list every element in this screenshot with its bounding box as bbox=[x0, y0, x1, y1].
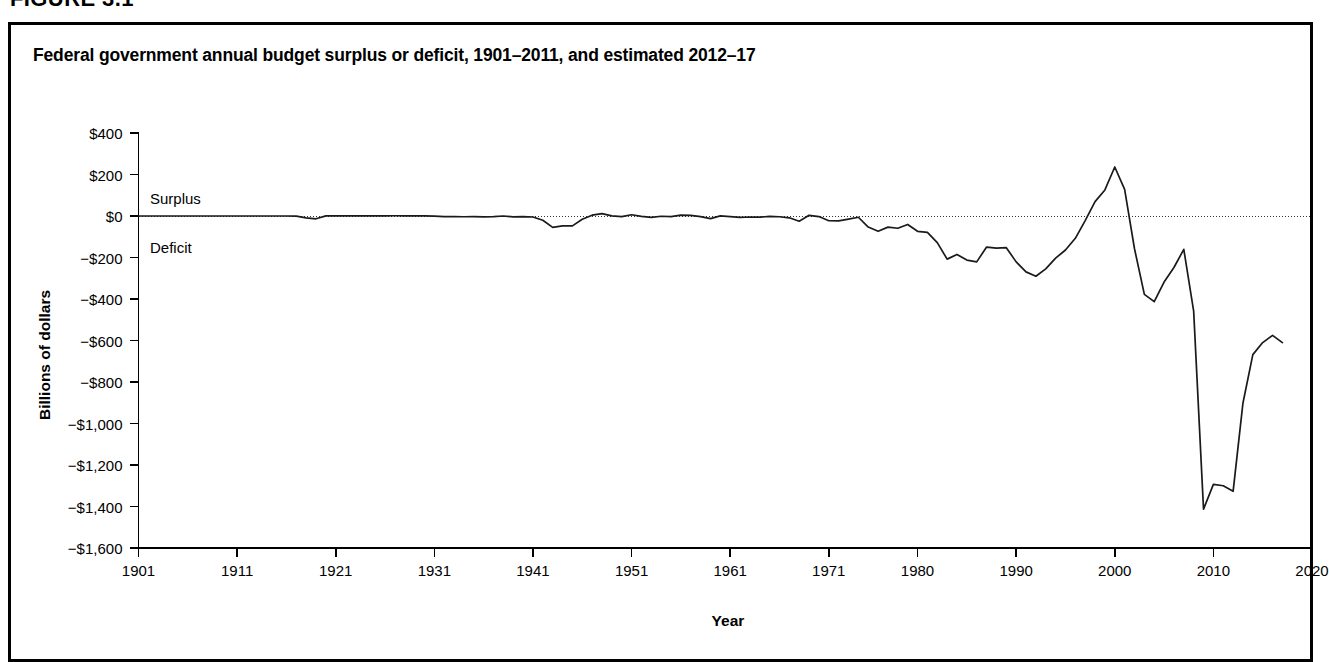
surplus-annotation: Surplus bbox=[150, 190, 201, 207]
y-axis-tick-label: −$1,400 bbox=[0, 498, 123, 515]
x-axis-tick-label: 2020 bbox=[1295, 562, 1328, 579]
y-axis-tick-label: −$800 bbox=[0, 374, 123, 391]
chart-title: Federal government annual budget surplus… bbox=[33, 45, 756, 66]
x-axis-tick-label: 1961 bbox=[713, 562, 746, 579]
x-axis-tick-label: 2000 bbox=[1098, 562, 1131, 579]
x-axis-tick-label: 1901 bbox=[122, 562, 155, 579]
x-axis-tick-label: 1971 bbox=[812, 562, 845, 579]
x-axis-tick-label: 1931 bbox=[418, 562, 451, 579]
y-axis-tick-label: $400 bbox=[0, 125, 123, 142]
y-axis-tick-label: $200 bbox=[0, 166, 123, 183]
x-axis-tick-label: 1921 bbox=[319, 562, 352, 579]
y-axis-tick-label: −$1,200 bbox=[0, 457, 123, 474]
figure-number-label: FIGURE 3.1 bbox=[10, 0, 134, 12]
y-axis-tick-label: −$200 bbox=[0, 249, 123, 266]
x-axis-tick-label: 1990 bbox=[999, 562, 1032, 579]
x-axis-tick-label: 2010 bbox=[1197, 562, 1230, 579]
y-axis-tick-label: −$1,600 bbox=[0, 540, 123, 557]
y-axis-tick-label: $0 bbox=[0, 208, 123, 225]
x-axis-tick-label: 1941 bbox=[516, 562, 549, 579]
y-axis-tick-label: −$1,000 bbox=[0, 415, 123, 432]
x-axis-tick-label: 1951 bbox=[615, 562, 648, 579]
y-axis-title: Billions of dollars bbox=[36, 290, 54, 420]
y-axis-tick-label: −$400 bbox=[0, 291, 123, 308]
x-axis-tick-label: 1911 bbox=[221, 562, 253, 579]
x-axis-tick-label: 1980 bbox=[901, 562, 934, 579]
x-axis-title: Year bbox=[712, 612, 745, 630]
y-axis-tick-label: −$600 bbox=[0, 332, 123, 349]
deficit-annotation: Deficit bbox=[150, 239, 192, 256]
